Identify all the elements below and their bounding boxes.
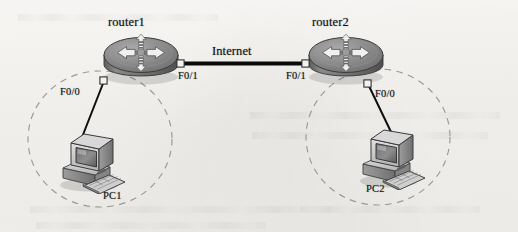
router2-label: router2 bbox=[312, 15, 349, 30]
pc2-icon[interactable] bbox=[360, 130, 425, 190]
network-diagram-canvas: router1 router2 Internet F0/1 F0/0 F0/1 … bbox=[0, 0, 518, 232]
router-group bbox=[104, 34, 383, 84]
router1-port-f00-connector bbox=[100, 77, 107, 84]
lan-link-1 bbox=[83, 81, 105, 136]
router2-port-f01-connector bbox=[302, 60, 309, 67]
router2-port-f01-label: F0/1 bbox=[286, 70, 306, 81]
router1-icon[interactable] bbox=[104, 34, 178, 84]
router2-port-f00-connector bbox=[364, 80, 371, 87]
pc1-icon[interactable] bbox=[60, 134, 125, 194]
router1-port-f01-label: F0/1 bbox=[178, 70, 198, 81]
router1-label: router1 bbox=[108, 15, 145, 30]
router1-port-f01-connector bbox=[177, 60, 184, 67]
diagram-vector-layer bbox=[0, 0, 518, 232]
pc1-label: PC1 bbox=[103, 190, 122, 201]
internet-link-label: Internet bbox=[212, 44, 252, 59]
router2-port-f00-label: F0/0 bbox=[375, 88, 395, 99]
router2-icon[interactable] bbox=[309, 34, 383, 84]
pc2-label: PC2 bbox=[366, 183, 385, 194]
router1-port-f00-label: F0/0 bbox=[60, 86, 80, 97]
lan-link-group bbox=[83, 81, 393, 136]
